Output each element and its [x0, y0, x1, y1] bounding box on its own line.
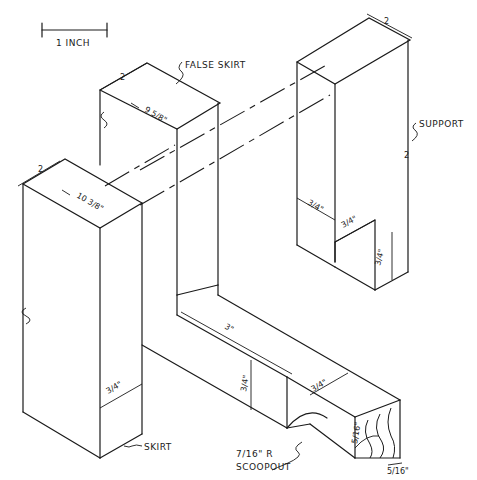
skirt-block: 2 10 3/8" 3/4": [18, 159, 142, 458]
break-mark: 2: [120, 73, 125, 82]
skirt-length-dim: 10 3/8": [75, 191, 105, 213]
skirt-label: SKIRT: [144, 442, 172, 452]
break-mark: 2: [384, 17, 389, 26]
end-height-dim: 5/16": [350, 421, 363, 444]
support-notch-width-dim: 3/4": [340, 214, 359, 230]
scale-bar-label: 1 INCH: [56, 38, 90, 48]
support-thickness-dim: 3/4": [306, 198, 325, 214]
false-skirt-length-dim: 9 5/8": [143, 105, 168, 125]
skirt-callout: SKIRT: [124, 442, 172, 452]
rail-height-dim: 3/4": [239, 374, 251, 392]
scoopout-label: SCOOPOUT: [236, 462, 291, 472]
scale-bar: 1 INCH: [42, 23, 107, 48]
scoopout-radius-label: 7/16" R: [236, 449, 273, 459]
scoopout-callout: 7/16" R SCOOPOUT: [236, 442, 302, 472]
break-mark: 2: [404, 151, 409, 160]
skirt-thickness-dim: 3/4": [105, 380, 124, 396]
rail: 3" 3/4" 3/4" 5/16" 5/16": [142, 285, 409, 476]
support-callout: SUPPORT: [412, 119, 464, 141]
false-skirt-callout: FALSE SKIRT: [176, 60, 246, 84]
false-skirt-label: FALSE SKIRT: [185, 60, 246, 70]
isometric-drawing: 1 INCH 2 2 3/4" 3/4" 3/4" SUPPORT: [0, 0, 477, 480]
break-mark: 2: [38, 165, 43, 174]
rail-width-dim: 3/4": [310, 378, 329, 394]
support-label: SUPPORT: [419, 119, 464, 129]
end-width-dim: 5/16": [387, 467, 409, 476]
support-block: 2 2 3/4" 3/4" 3/4": [297, 14, 412, 290]
rail-length-dim: 3": [223, 322, 235, 334]
